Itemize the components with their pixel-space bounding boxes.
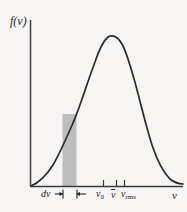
tick-label-v0-sub: 0 xyxy=(100,193,104,201)
tick-label-vbar: v xyxy=(111,189,115,200)
dv-dimension-marker xyxy=(55,190,86,199)
tick-label-vbar-base: v xyxy=(111,189,115,200)
tick-label-vrms: vrms xyxy=(121,189,136,199)
y-axis-label: f(v) xyxy=(10,15,27,27)
x-axis-label: v xyxy=(172,190,177,201)
maxwell-distribution-figure: f(v) v dv v0 v vrms xyxy=(0,0,187,212)
tick-label-vrms-sub: rms xyxy=(125,193,136,201)
distribution-plot xyxy=(0,0,187,212)
shaded-strip-dv xyxy=(63,114,77,186)
distribution-curve xyxy=(31,36,183,186)
dv-label: dv xyxy=(41,189,50,199)
tick-label-v0: v0 xyxy=(96,189,104,199)
